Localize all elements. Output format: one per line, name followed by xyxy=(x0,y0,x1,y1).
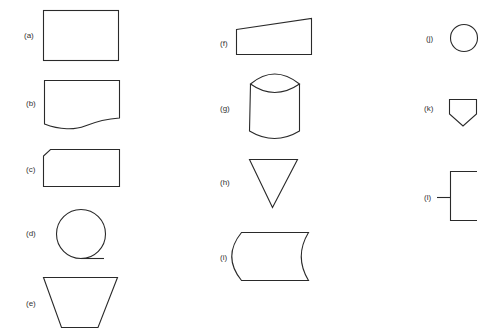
drum-top-icon xyxy=(251,74,300,93)
label-i: (i) xyxy=(220,253,227,262)
document-icon xyxy=(45,81,120,129)
label-c: (c) xyxy=(26,165,36,174)
manual-operation-icon xyxy=(44,278,118,328)
manual-input-icon xyxy=(237,19,312,55)
stored-data-icon xyxy=(232,233,309,281)
shape-b: (b) xyxy=(26,81,120,129)
shape-l: (l) xyxy=(424,172,477,221)
shape-h: (h) xyxy=(220,160,298,208)
shape-g: (g) xyxy=(220,74,300,139)
shape-d: (d) xyxy=(26,210,106,259)
shape-j: (j) xyxy=(426,25,478,52)
label-d: (d) xyxy=(26,229,36,238)
label-e: (e) xyxy=(26,299,36,308)
label-a: (a) xyxy=(24,31,34,40)
offline-storage-icon xyxy=(250,160,298,208)
shape-k: (k) xyxy=(424,100,477,127)
magnetic-tape-icon xyxy=(57,210,106,259)
label-b: (b) xyxy=(26,99,36,108)
connector-icon xyxy=(451,25,478,52)
shape-a: (a) xyxy=(24,11,119,61)
label-l: (l) xyxy=(424,193,431,202)
shape-f: (f) xyxy=(220,19,312,55)
label-h: (h) xyxy=(220,178,230,187)
label-g: (g) xyxy=(220,104,230,113)
annotation-bracket-icon xyxy=(451,172,478,221)
offpage-connector-icon xyxy=(450,100,477,127)
rectangle-process-icon xyxy=(44,11,119,61)
label-f: (f) xyxy=(220,39,228,48)
punched-card-icon xyxy=(44,150,120,187)
shape-i: (i) xyxy=(220,233,309,281)
shape-c: (c) xyxy=(26,150,120,187)
label-k: (k) xyxy=(424,104,434,113)
flowchart-symbols-diagram: (a) (b) (c) (d) (e) (f) (g) (h) (i) xyxy=(0,0,501,331)
label-j: (j) xyxy=(426,34,433,43)
shape-e: (e) xyxy=(26,278,118,328)
